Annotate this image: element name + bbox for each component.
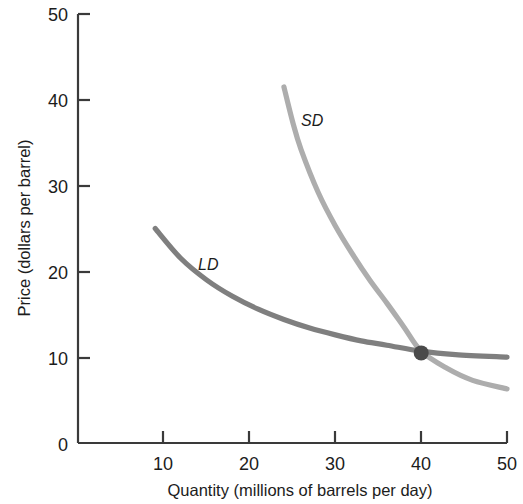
x-tick-label-50: 50 [497,454,517,474]
y-tick-label-20: 20 [48,263,68,283]
ld-curve-label: LD [198,256,219,273]
y-tick-label-10: 10 [48,349,68,369]
y-axis-title: Price (dollars per barrel) [15,140,33,317]
economics-supply-demand-chart: 50 40 30 20 10 0 10 20 30 40 50 Price (d… [0,0,523,504]
y-tick-label-0: 0 [58,435,68,455]
x-tick-label-10: 10 [153,454,173,474]
x-tick-label-20: 20 [239,454,259,474]
y-tick-label-40: 40 [48,91,68,111]
equilibrium-point-marker [414,345,429,360]
x-axis-title: Quantity (millions of barrels per day) [167,481,432,499]
chart-canvas: 50 40 30 20 10 0 10 20 30 40 50 Price (d… [0,0,523,504]
x-tick-label-30: 30 [325,454,345,474]
y-tick-label-30: 30 [48,177,68,197]
y-tick-label-50: 50 [48,5,68,25]
sd-curve-label: SD [301,112,324,129]
x-tick-label-40: 40 [411,454,431,474]
